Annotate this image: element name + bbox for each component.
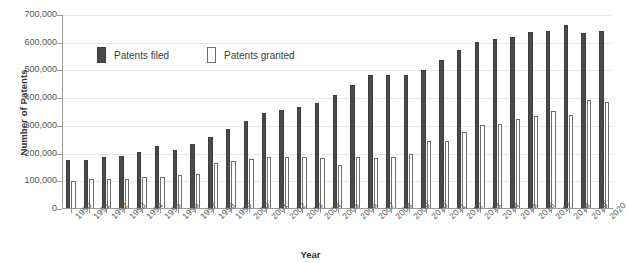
- x-axis-tick-mark: [604, 209, 605, 213]
- gridline: [62, 15, 613, 16]
- bar-patents-granted[interactable]: [249, 159, 253, 209]
- x-axis-tick-mark: [551, 209, 552, 213]
- bar-patents-granted[interactable]: [320, 158, 324, 209]
- y-axis-tick-mark: [57, 181, 62, 182]
- bar-patents-granted[interactable]: [71, 181, 75, 209]
- y-axis-tick-label: 500,000: [5, 65, 57, 74]
- bar-patents-filed[interactable]: [599, 31, 603, 209]
- y-axis-tick-label: 700,000: [5, 10, 57, 19]
- x-axis-tick-mark: [569, 209, 570, 213]
- x-axis-tick-mark: [178, 209, 179, 213]
- legend-swatch-granted-icon: [207, 47, 216, 63]
- bar-patents-granted[interactable]: [445, 141, 449, 209]
- bar-patents-filed[interactable]: [208, 137, 212, 209]
- x-axis-tick-mark: [515, 209, 516, 213]
- bar-patents-granted[interactable]: [551, 111, 555, 209]
- bar-patents-filed[interactable]: [368, 75, 372, 209]
- bar-patents-filed[interactable]: [386, 75, 390, 209]
- bar-patents-granted[interactable]: [427, 141, 431, 209]
- x-axis-tick-mark: [533, 209, 534, 213]
- bar-patents-filed[interactable]: [546, 31, 550, 209]
- bar-patents-granted[interactable]: [587, 100, 591, 209]
- bar-patents-filed[interactable]: [581, 33, 585, 209]
- y-axis-tick-label: 300,000: [5, 121, 57, 130]
- bar-patents-granted[interactable]: [516, 119, 520, 209]
- x-axis-tick-mark: [586, 209, 587, 213]
- y-axis-tick-mark: [57, 209, 62, 210]
- bar-patents-granted[interactable]: [605, 102, 609, 209]
- bar-patents-filed[interactable]: [333, 95, 337, 209]
- bar-patents-filed[interactable]: [439, 60, 443, 209]
- plot-area: [62, 15, 613, 209]
- bar-patents-filed[interactable]: [528, 32, 532, 209]
- y-axis-tick-label: 400,000: [5, 93, 57, 102]
- x-axis-tick-mark: [142, 209, 143, 213]
- y-axis-tick-mark: [57, 43, 62, 44]
- x-axis-tick-mark: [231, 209, 232, 213]
- bar-patents-granted[interactable]: [462, 132, 466, 209]
- bar-patents-filed[interactable]: [350, 85, 354, 209]
- y-axis-tick-label: 600,000: [5, 38, 57, 47]
- x-axis-tick-mark: [426, 209, 427, 213]
- y-axis-tick-mark: [57, 70, 62, 71]
- y-axis-line: [62, 15, 63, 209]
- bar-patents-filed[interactable]: [404, 75, 408, 209]
- x-axis-tick-mark: [124, 209, 125, 213]
- x-axis-tick-mark: [160, 209, 161, 213]
- x-axis-tick-mark: [355, 209, 356, 213]
- x-axis-tick-mark: [213, 209, 214, 213]
- bar-patents-filed[interactable]: [493, 39, 497, 209]
- x-axis-tick-mark: [266, 209, 267, 213]
- bar-patents-filed[interactable]: [475, 42, 479, 209]
- x-axis-tick-mark: [302, 209, 303, 213]
- x-axis-tick-mark: [195, 209, 196, 213]
- x-axis-tick-mark: [391, 209, 392, 213]
- bar-patents-filed[interactable]: [244, 121, 248, 209]
- x-axis-tick-mark: [338, 209, 339, 213]
- bar-patents-granted[interactable]: [534, 116, 538, 209]
- legend-label-patents-granted: Patents granted: [224, 50, 295, 61]
- bar-patents-granted[interactable]: [569, 115, 573, 209]
- y-axis-tick-label: 200,000: [5, 149, 57, 158]
- bar-patents-granted[interactable]: [267, 157, 271, 209]
- x-axis-tick-mark: [480, 209, 481, 213]
- bar-patents-filed[interactable]: [564, 25, 568, 209]
- x-axis-tick-mark: [249, 209, 250, 213]
- legend-entry-patents-filed: Patents filed: [97, 47, 169, 63]
- x-axis-tick-mark: [462, 209, 463, 213]
- bar-patents-granted[interactable]: [480, 125, 484, 209]
- x-axis-tick-mark: [444, 209, 445, 213]
- legend-label-patents-filed: Patents filed: [114, 50, 169, 61]
- y-axis-tick-label: 100,000: [5, 176, 57, 185]
- bar-patents-filed[interactable]: [510, 37, 514, 209]
- bar-patents-granted[interactable]: [498, 124, 502, 209]
- bar-patents-filed[interactable]: [226, 129, 230, 209]
- y-axis-tick-labels: 700,000600,000500,000400,000300,000200,0…: [0, 0, 57, 263]
- bar-patents-filed[interactable]: [262, 113, 266, 209]
- bar-patents-filed[interactable]: [66, 160, 70, 209]
- x-axis-tick-mark: [71, 209, 72, 213]
- x-axis-tick-mark: [373, 209, 374, 213]
- x-axis-tick-mark: [284, 209, 285, 213]
- bar-patents-filed[interactable]: [279, 110, 283, 209]
- y-axis-tick-mark: [57, 154, 62, 155]
- y-axis-tick-mark: [57, 126, 62, 127]
- x-axis-tick-mark: [89, 209, 90, 213]
- legend-entry-patents-granted: Patents granted: [207, 47, 295, 63]
- legend-spacer: [169, 55, 207, 56]
- x-axis-tick-mark: [497, 209, 498, 213]
- x-axis-tick-mark: [106, 209, 107, 213]
- bar-patents-filed[interactable]: [315, 103, 319, 209]
- y-axis-tick-mark: [57, 15, 62, 16]
- bar-patents-granted[interactable]: [409, 154, 413, 209]
- bar-patents-filed[interactable]: [297, 107, 301, 209]
- bar-patents-filed[interactable]: [457, 50, 461, 209]
- x-axis-title: Year: [0, 249, 621, 260]
- x-axis-tick-mark: [320, 209, 321, 213]
- y-axis-tick-label: 0: [5, 204, 57, 213]
- chart-legend: Patents filed Patents granted: [97, 47, 295, 63]
- y-axis-tick-mark: [57, 98, 62, 99]
- bar-patents-filed[interactable]: [421, 70, 425, 209]
- legend-swatch-filed-icon: [97, 47, 106, 63]
